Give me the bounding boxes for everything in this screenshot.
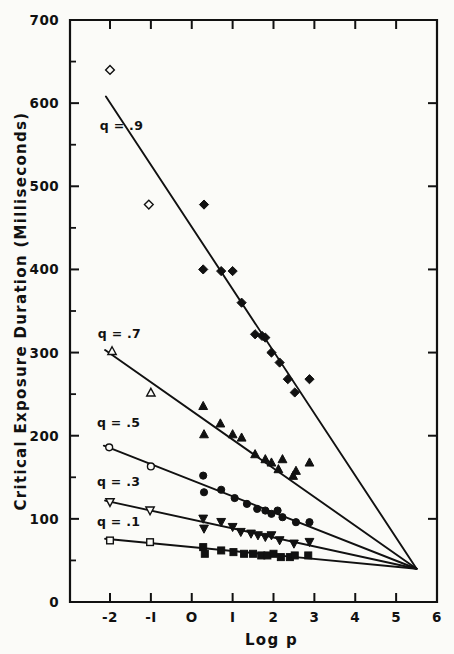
data-point-circle-filled: [306, 519, 313, 526]
data-point-circle-filled: [200, 472, 207, 479]
y-tick-label: 200: [30, 428, 59, 444]
data-point-triangle-up-filled: [216, 419, 225, 427]
data-point-circle-filled: [279, 514, 286, 521]
data-point-triangle-up-open: [108, 347, 116, 355]
data-point-triangle-up-filled: [237, 433, 246, 441]
data-point-square-filled: [230, 549, 237, 556]
data-point-square-filled: [270, 550, 277, 557]
data-point-triangle-up-filled: [199, 401, 208, 409]
data-point-diamond-open: [144, 200, 153, 209]
data-point-circle-open: [147, 463, 154, 470]
series-label-3: q = .3: [97, 474, 140, 489]
data-point-triangle-down-filled: [236, 528, 245, 536]
series-label-0: q = .9: [100, 118, 143, 133]
y-tick-label: 0: [49, 594, 59, 610]
data-point-diamond-filled: [267, 348, 276, 357]
data-point-circle-filled: [292, 519, 299, 526]
y-tick-label: 600: [30, 95, 59, 111]
data-point-triangle-up-filled: [200, 430, 209, 438]
series-label-2: q = .5: [97, 415, 140, 430]
y-tick-label: 500: [30, 178, 59, 194]
data-point-triangle-down-filled: [275, 537, 284, 545]
data-point-diamond-filled: [283, 375, 292, 384]
y-tick-label: 100: [30, 511, 59, 527]
series-labels: q = .9q = .7q = .5q = .3q = .1: [97, 118, 143, 529]
data-point-circle-open: [106, 444, 113, 451]
data-point-square-open: [107, 537, 114, 544]
data-point-square-filled: [291, 552, 298, 559]
y-axis-title: Critical Exposure Duration (Milliseconds…: [12, 112, 30, 511]
data-point-triangle-up-open: [147, 388, 155, 396]
data-point-square-filled: [241, 550, 248, 557]
data-point-triangle-up-filled: [292, 466, 301, 474]
data-point-square-filled: [250, 550, 257, 557]
x-tick-label: 2: [269, 609, 279, 625]
series-0-points: [106, 66, 314, 398]
scatter-plot-svg: 0100200300400500600700-2-IOI23456 q = .9…: [0, 0, 454, 654]
x-tick-label: 6: [432, 609, 442, 625]
data-point-square-filled: [305, 552, 312, 559]
data-point-circle-filled: [218, 486, 225, 493]
y-tick-label: 400: [30, 261, 59, 277]
data-point-square-filled: [218, 547, 225, 554]
data-point-circle-filled: [200, 489, 207, 496]
data-point-square-filled: [277, 554, 284, 561]
data-point-circle-filled: [243, 500, 250, 507]
data-point-diamond-open: [106, 66, 115, 75]
data-point-triangle-up-filled: [261, 455, 270, 463]
y-tick-label: 300: [30, 345, 59, 361]
data-point-triangle-up-filled: [228, 430, 237, 438]
y-tick-label: 700: [30, 12, 59, 28]
data-point-diamond-filled: [228, 266, 237, 275]
fit-line-series-1: [105, 350, 416, 569]
data-point-diamond-filled: [199, 200, 208, 209]
x-tick-label: 4: [350, 609, 360, 625]
data-point-square-open: [147, 539, 154, 546]
x-tick-label: -2: [102, 609, 118, 625]
data-point-square-filled: [201, 550, 208, 557]
x-tick-label: 5: [391, 609, 401, 625]
series-label-1: q = .7: [98, 326, 141, 341]
x-tick-label: I: [230, 609, 235, 625]
series-label-4: q = .1: [97, 514, 140, 529]
chart-figure: 0100200300400500600700-2-IOI23456 q = .9…: [0, 0, 454, 654]
x-tick-label: -I: [145, 609, 156, 625]
data-point-triangle-up-filled: [278, 455, 287, 463]
data-point-triangle-down-filled: [200, 525, 209, 533]
data-point-diamond-filled: [199, 265, 208, 274]
data-point-triangle-up-filled: [305, 458, 314, 466]
axis-tick-labels: 0100200300400500600700-2-IOI23456: [30, 12, 442, 625]
x-tick-label: 3: [309, 609, 319, 625]
data-point-circle-filled: [274, 507, 281, 514]
data-point-circle-filled: [254, 505, 261, 512]
x-axis-title: Log p: [245, 631, 298, 649]
x-tick-label: O: [186, 609, 198, 625]
data-point-diamond-filled: [305, 375, 314, 384]
data-point-triangle-down-filled: [290, 540, 299, 548]
data-point-circle-filled: [231, 494, 238, 501]
data-point-square-filled: [200, 544, 207, 551]
